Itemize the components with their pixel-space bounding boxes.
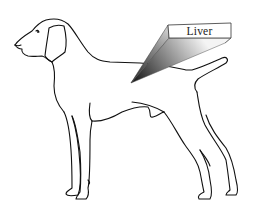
dog-anatomy-diagram: Liver bbox=[0, 0, 259, 206]
rear-legs bbox=[197, 92, 238, 195]
front-legs bbox=[64, 103, 92, 199]
liver-label: Liver bbox=[169, 24, 230, 38]
eye-icon bbox=[37, 31, 39, 33]
belly-outline bbox=[92, 102, 212, 199]
